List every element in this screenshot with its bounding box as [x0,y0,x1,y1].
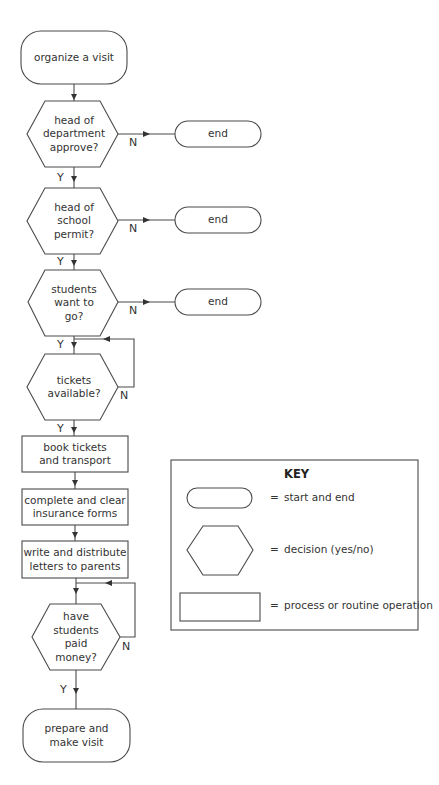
decision-students-yes: Y [57,338,64,351]
decision-paid-label: have students paid money? [32,604,120,670]
decision-tickets-yes: Y [57,422,64,435]
decision-tickets-no: N [120,389,128,402]
decision-school-yes: Y [57,255,64,268]
decision-students-label: students want to go? [30,270,118,336]
key-text-process: process or routine operation [284,599,433,611]
key-eq-decision: = [270,543,279,555]
key-text-terminal: start and end [284,491,355,503]
key-eq-terminal: = [270,491,279,503]
start-label: organize a visit [21,31,127,84]
finish-label: prepare and make visit [23,709,130,762]
key-process-shape [180,593,260,621]
key-eq-process: = [270,599,279,611]
key-terminal-shape [187,488,252,508]
end-3-label: end [175,289,261,315]
decision-department-yes: Y [57,171,64,184]
end-1-label: end [175,121,261,147]
process-letters-label: write and distribute letters to parents [22,541,128,578]
decision-tickets-label: tickets available? [30,354,118,420]
key-text-decision: decision (yes/no) [284,543,374,555]
decision-school-label: head of school permit? [30,188,118,254]
decision-school-no: N [129,222,137,235]
process-book-label: book tickets and transport [22,436,128,472]
decision-paid-no: N [122,640,130,653]
end-2-label: end [175,207,261,233]
decision-department-no: N [129,136,137,149]
process-insurance-label: complete and clear insurance forms [22,489,128,525]
decision-paid-yes: Y [60,683,67,696]
key-title: KEY [284,467,309,481]
decision-department-label: head of department approve? [30,101,118,167]
decision-students-no: N [129,304,137,317]
